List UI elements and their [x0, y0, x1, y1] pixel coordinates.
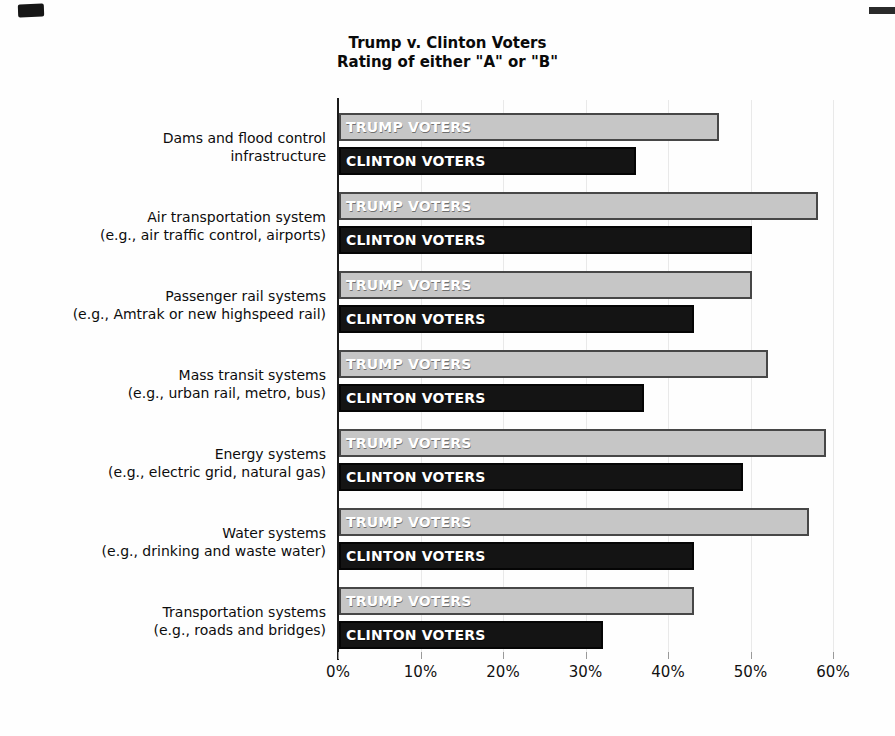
gridline: [833, 100, 834, 652]
trump-voters-bar: TRUMP VOTERS: [339, 587, 694, 615]
trump-voters-bar: TRUMP VOTERS: [339, 113, 719, 141]
category-label-line1: Dams and flood control: [0, 129, 326, 147]
category-label-line2: (e.g., electric grid, natural gas): [0, 463, 326, 481]
bar-chart: Trump v. Clinton Voters Rating of either…: [0, 0, 895, 736]
category-label-line1: Air transportation system: [0, 208, 326, 226]
clinton-voters-bar-label: CLINTON VOTERS: [341, 390, 485, 406]
x-axis-tick: [421, 652, 422, 659]
y-axis-line: [337, 98, 339, 660]
chart-subtitle: Rating of either "A" or "B": [0, 53, 895, 72]
trump-voters-bar-label: TRUMP VOTERS: [341, 119, 472, 135]
trump-voters-bar-label: TRUMP VOTERS: [341, 593, 472, 609]
trump-voters-bar-label: TRUMP VOTERS: [341, 356, 472, 372]
category-label: Mass transit systems(e.g., urban rail, m…: [0, 366, 326, 402]
x-tick-label: 30%: [551, 663, 621, 681]
trump-voters-bar: TRUMP VOTERS: [339, 508, 809, 536]
trump-voters-bar-label: TRUMP VOTERS: [341, 198, 472, 214]
clinton-voters-bar: CLINTON VOTERS: [339, 621, 603, 649]
category-label-line2: (e.g., urban rail, metro, bus): [0, 384, 326, 402]
clinton-voters-bar-label: CLINTON VOTERS: [341, 469, 485, 485]
x-tick-label: 60%: [798, 663, 868, 681]
category-label-line2: (e.g., air traffic control, airports): [0, 226, 326, 244]
clinton-voters-bar-label: CLINTON VOTERS: [341, 548, 485, 564]
clinton-voters-bar: CLINTON VOTERS: [339, 147, 636, 175]
trump-voters-bar: TRUMP VOTERS: [339, 429, 826, 457]
x-axis-tick: [586, 652, 587, 659]
clinton-voters-bar-label: CLINTON VOTERS: [341, 311, 485, 327]
x-axis-tick: [338, 652, 339, 659]
category-label: Passenger rail systems(e.g., Amtrak or n…: [0, 287, 326, 323]
trump-voters-bar-label: TRUMP VOTERS: [341, 514, 472, 530]
category-label-line1: Mass transit systems: [0, 366, 326, 384]
trump-voters-bar-label: TRUMP VOTERS: [341, 435, 472, 451]
x-axis-tick: [751, 652, 752, 659]
category-label-line1: Energy systems: [0, 445, 326, 463]
category-label-line1: Transportation systems: [0, 603, 326, 621]
chart-title: Trump v. Clinton Voters: [0, 34, 895, 53]
category-label: Water systems(e.g., drinking and waste w…: [0, 524, 326, 560]
trump-voters-bar: TRUMP VOTERS: [339, 271, 752, 299]
scan-artifact: [869, 7, 895, 14]
clinton-voters-bar: CLINTON VOTERS: [339, 384, 644, 412]
clinton-voters-bar: CLINTON VOTERS: [339, 463, 743, 491]
chart-header: Trump v. Clinton Voters Rating of either…: [0, 34, 895, 72]
x-axis-tick: [668, 652, 669, 659]
category-label-line2: infrastructure: [0, 147, 326, 165]
category-label: Air transportation system(e.g., air traf…: [0, 208, 326, 244]
category-label: Energy systems(e.g., electric grid, natu…: [0, 445, 326, 481]
x-tick-label: 50%: [716, 663, 786, 681]
scan-artifact: [18, 4, 44, 18]
x-axis-tick: [833, 652, 834, 659]
clinton-voters-bar-label: CLINTON VOTERS: [341, 232, 485, 248]
clinton-voters-bar: CLINTON VOTERS: [339, 226, 752, 254]
x-tick-label: 0%: [303, 663, 373, 681]
category-label-line2: (e.g., drinking and waste water): [0, 542, 326, 560]
trump-voters-bar: TRUMP VOTERS: [339, 350, 768, 378]
trump-voters-bar-label: TRUMP VOTERS: [341, 277, 472, 293]
category-label-line1: Water systems: [0, 524, 326, 542]
category-label-line2: (e.g., Amtrak or new highspeed rail): [0, 305, 326, 323]
trump-voters-bar: TRUMP VOTERS: [339, 192, 818, 220]
x-axis-tick: [503, 652, 504, 659]
clinton-voters-bar-label: CLINTON VOTERS: [341, 153, 485, 169]
category-label: Transportation systems(e.g., roads and b…: [0, 603, 326, 639]
clinton-voters-bar-label: CLINTON VOTERS: [341, 627, 485, 643]
x-tick-label: 20%: [468, 663, 538, 681]
category-label: Dams and flood controlinfrastructure: [0, 129, 326, 165]
x-tick-label: 10%: [386, 663, 456, 681]
clinton-voters-bar: CLINTON VOTERS: [339, 305, 694, 333]
clinton-voters-bar: CLINTON VOTERS: [339, 542, 694, 570]
x-tick-label: 40%: [633, 663, 703, 681]
category-label-line2: (e.g., roads and bridges): [0, 621, 326, 639]
category-label-line1: Passenger rail systems: [0, 287, 326, 305]
